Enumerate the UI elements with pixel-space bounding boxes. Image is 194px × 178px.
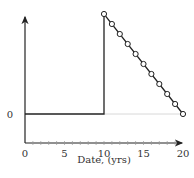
y-tick-labels: 0	[7, 109, 13, 120]
data-marker	[109, 21, 114, 26]
data-marker	[149, 71, 154, 76]
data-marker	[165, 91, 170, 96]
x-axis-title: Date, (yrs)	[77, 154, 131, 165]
x-tick-label: 5	[61, 148, 67, 159]
data-marker	[101, 11, 106, 16]
x-tick-label: 20	[177, 148, 190, 159]
data-marker	[141, 61, 146, 66]
data-line	[25, 14, 183, 114]
x-tick-label: 15	[137, 148, 150, 159]
data-marker	[157, 81, 162, 86]
data-marker	[180, 111, 185, 116]
y-tick-label: 0	[7, 109, 13, 120]
data-marker	[125, 41, 130, 46]
data-marker	[173, 101, 178, 106]
data-marker	[133, 51, 138, 56]
x-tick-label: 0	[22, 148, 28, 159]
chart: 05101520 0 Date, (yrs)	[0, 0, 194, 178]
data-marker	[117, 31, 122, 36]
